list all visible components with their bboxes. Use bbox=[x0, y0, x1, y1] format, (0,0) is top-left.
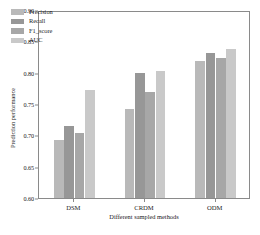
y-tick-label: 0.60 bbox=[24, 196, 34, 202]
plot-area bbox=[38, 11, 250, 199]
legend-swatch-icon bbox=[11, 19, 24, 25]
legend-swatch-icon bbox=[11, 38, 24, 44]
bar-precision-dsm bbox=[54, 140, 64, 198]
bar-recall-dsm bbox=[64, 126, 74, 198]
legend-label: AUC bbox=[29, 37, 43, 43]
bar-recall-odm bbox=[206, 53, 216, 198]
legend-label: F1_score bbox=[29, 28, 52, 34]
legend-swatch-icon bbox=[11, 28, 24, 34]
y-tick-label: 0.65 bbox=[24, 165, 34, 171]
bar-f1_score-odm bbox=[216, 58, 226, 198]
bar-precision-crdm bbox=[125, 109, 135, 198]
y-tick-label: 0.70 bbox=[24, 133, 34, 139]
bar-recall-crdm bbox=[135, 73, 145, 198]
legend-item-f1_score: F1_score bbox=[11, 26, 53, 36]
bar-auc-crdm bbox=[156, 71, 166, 198]
y-tick-label: 0.80 bbox=[24, 71, 34, 77]
x-tick-label: DSM bbox=[66, 205, 80, 212]
y-axis-label: Prediction performance bbox=[10, 58, 16, 178]
legend-item-recall: Recall bbox=[11, 17, 53, 27]
x-tick-mark bbox=[73, 199, 74, 202]
bar-f1_score-dsm bbox=[75, 133, 85, 198]
legend-swatch-icon bbox=[11, 9, 24, 15]
bar-auc-dsm bbox=[85, 90, 95, 198]
chart-legend: PrecisionRecallF1_scoreAUC bbox=[8, 5, 57, 47]
x-tick-label: ODM bbox=[207, 205, 222, 212]
bar-chart-figure: 0.600.650.700.750.800.850.90 Prediction … bbox=[0, 0, 260, 235]
bar-f1_score-crdm bbox=[145, 92, 155, 198]
legend-item-auc: AUC bbox=[11, 36, 53, 46]
bar-auc-odm bbox=[226, 49, 236, 198]
bar-precision-odm bbox=[195, 61, 205, 198]
x-tick-mark bbox=[144, 199, 145, 202]
legend-label: Precision bbox=[29, 9, 53, 15]
y-tick-label: 0.75 bbox=[24, 102, 34, 108]
legend-label: Recall bbox=[29, 18, 45, 24]
x-axis-label: Different sampled methods bbox=[38, 214, 250, 220]
legend-item-precision: Precision bbox=[11, 7, 53, 17]
x-tick-label: CRDM bbox=[134, 205, 153, 212]
x-tick-mark bbox=[215, 199, 216, 202]
